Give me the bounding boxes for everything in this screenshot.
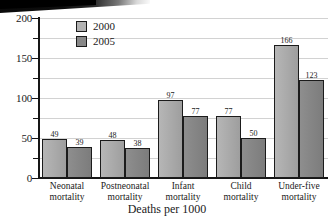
bar-value-label: 77 [192, 108, 200, 116]
y-axis-tick [32, 138, 38, 139]
bar-value-label: 48 [109, 132, 117, 140]
legend-item-2000: 2000 [76, 19, 115, 34]
y-axis-tick [32, 178, 38, 179]
bar-value-label: 49 [51, 131, 59, 139]
bar-group: 9777 [158, 18, 208, 178]
y-axis-line [38, 17, 40, 179]
bar-2000: 166 [274, 45, 299, 178]
bar-2005: 123 [299, 80, 324, 178]
y-axis-tick-label: 0 [2, 173, 32, 184]
y-axis-tick-label: 150 [2, 53, 32, 64]
y-axis-tick [32, 98, 38, 99]
category-label: Under-fivemortality [264, 181, 334, 202]
y-axis-minor-tick [33, 78, 38, 79]
bar-2000: 49 [42, 139, 67, 178]
bar-value-label: 38 [134, 140, 142, 148]
bar-2000: 97 [158, 100, 183, 178]
bar-2005: 38 [125, 148, 150, 178]
bar-group: 166123 [274, 18, 324, 178]
bar-value-label: 166 [281, 37, 293, 45]
bar-value-label: 50 [250, 130, 258, 138]
bar-2000: 48 [100, 140, 125, 178]
legend-swatch-icon-2005 [76, 36, 87, 47]
y-axis-minor-tick [33, 158, 38, 159]
category-label-line: Under-five [264, 181, 334, 192]
y-axis-tick [32, 18, 38, 19]
category-label-line: mortality [264, 192, 334, 203]
legend-label-2000: 2000 [93, 21, 115, 32]
bar-value-label: 39 [76, 139, 84, 147]
y-axis-tick-label: 100 [2, 93, 32, 104]
chart-legend: 2000 2005 [76, 19, 115, 49]
y-axis-tick-label: 50 [2, 133, 32, 144]
legend-item-2005: 2005 [76, 34, 115, 49]
y-axis-labels: 050100150200 [0, 0, 32, 221]
bar-2000: 77 [216, 116, 241, 178]
y-axis-minor-tick [33, 38, 38, 39]
bar-2005: 77 [183, 116, 208, 178]
bar-2005: 39 [67, 147, 92, 178]
bar-chart: 050100150200 4939483897777750166123 Neon… [0, 0, 334, 221]
bar-2005: 50 [241, 138, 266, 178]
y-axis-tick [32, 58, 38, 59]
bar-value-label: 97 [167, 92, 175, 100]
bar-group: 7750 [216, 18, 266, 178]
bar-value-label: 77 [225, 108, 233, 116]
legend-swatch-icon-2000 [76, 21, 87, 32]
x-axis-title: Deaths per 1000 [0, 203, 334, 216]
bar-value-label: 123 [306, 72, 318, 80]
legend-label-2005: 2005 [93, 36, 115, 47]
y-axis-minor-tick [33, 118, 38, 119]
y-axis-tick-label: 200 [2, 13, 32, 24]
